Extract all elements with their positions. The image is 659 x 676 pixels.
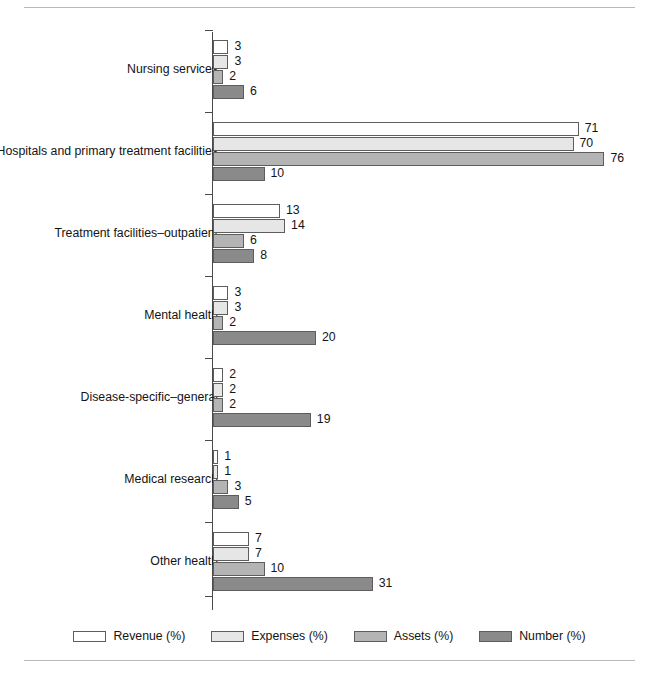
bar-value-label: 3 (234, 285, 241, 300)
bar (213, 122, 579, 136)
legend-label: Expenses (%) (251, 630, 328, 643)
bar-value-label: 7 (255, 531, 262, 546)
category-label: Treatment facilities–outpatient (0, 226, 218, 240)
axis-tick (205, 522, 213, 523)
bar (213, 368, 223, 382)
bar (213, 547, 249, 561)
legend-swatch-icon (73, 631, 106, 642)
bar-value-label: 7 (255, 546, 262, 561)
bar (213, 249, 254, 263)
bar (213, 167, 265, 181)
bar (213, 137, 574, 151)
bar-value-label: 10 (271, 166, 285, 181)
bar (213, 383, 223, 397)
bar (213, 234, 244, 248)
bar-value-label: 14 (291, 218, 305, 233)
legend-swatch-icon (479, 631, 512, 642)
bar-value-label: 2 (229, 397, 236, 412)
bar-value-label: 20 (322, 330, 336, 345)
bar-value-label: 2 (229, 315, 236, 330)
bar (213, 85, 244, 99)
bar-value-label: 70 (580, 136, 594, 151)
bar (213, 398, 223, 412)
legend-item[interactable]: Expenses (%) (211, 630, 328, 643)
bar-value-label: 2 (229, 69, 236, 84)
chart-legend: Revenue (%)Expenses (%)Assets (%)Number … (0, 630, 659, 643)
axis-tick (205, 194, 213, 195)
bar-value-label: 10 (271, 561, 285, 576)
legend-item[interactable]: Number (%) (479, 630, 585, 643)
category-label: Other health (0, 554, 218, 568)
bar-value-label: 3 (234, 54, 241, 69)
category-label: Nursing services (0, 62, 218, 76)
bar (213, 40, 228, 54)
legend-swatch-icon (354, 631, 387, 642)
bar (213, 152, 604, 166)
bottom-divider-rule (24, 660, 635, 661)
bar (213, 331, 316, 345)
legend-label: Number (%) (519, 630, 585, 643)
bar (213, 301, 228, 315)
bar-value-label: 31 (379, 576, 393, 591)
bar (213, 316, 223, 330)
legend-label: Assets (%) (394, 630, 453, 643)
bar (213, 219, 285, 233)
bar (213, 413, 311, 427)
bar-value-label: 3 (234, 479, 241, 494)
axis-tick (205, 30, 213, 31)
bar-value-label: 2 (229, 382, 236, 397)
legend-label: Revenue (%) (113, 630, 185, 643)
plot-area: Nursing services3326Hospitals and primar… (0, 26, 659, 614)
bar-value-label: 8 (260, 248, 267, 263)
category-label: Medical research (0, 472, 218, 486)
bar (213, 465, 218, 479)
bar (213, 204, 280, 218)
legend-swatch-icon (211, 631, 244, 642)
bar (213, 532, 249, 546)
category-label: Disease-specific–general (0, 390, 218, 404)
bar (213, 286, 228, 300)
bar (213, 55, 228, 69)
legend-item[interactable]: Revenue (%) (73, 630, 185, 643)
category-label: Hospitals and primary treatment faciliti… (0, 144, 218, 158)
bar-value-label: 6 (250, 233, 257, 248)
bar-value-label: 1 (224, 449, 231, 464)
bar (213, 450, 218, 464)
axis-tick (205, 440, 213, 441)
bar-value-label: 3 (234, 39, 241, 54)
legend-item[interactable]: Assets (%) (354, 630, 453, 643)
axis-tick (205, 596, 213, 597)
bar (213, 495, 239, 509)
bar-value-label: 2 (229, 367, 236, 382)
bar-value-label: 19 (317, 412, 331, 427)
bar-value-label: 13 (286, 203, 300, 218)
bar-value-label: 6 (250, 84, 257, 99)
chart-figure: Nursing services3326Hospitals and primar… (0, 0, 659, 676)
axis-tick (205, 358, 213, 359)
bar-value-label: 5 (245, 494, 252, 509)
bar (213, 70, 223, 84)
bar-value-label: 1 (224, 464, 231, 479)
bar (213, 577, 373, 591)
bar-value-label: 3 (234, 300, 241, 315)
bar (213, 480, 228, 494)
bar-value-label: 71 (585, 121, 599, 136)
axis-tick (205, 112, 213, 113)
bar-value-label: 76 (610, 151, 624, 166)
category-label: Mental health (0, 308, 218, 322)
top-divider-rule (24, 7, 635, 8)
axis-tick (205, 276, 213, 277)
bar (213, 562, 265, 576)
